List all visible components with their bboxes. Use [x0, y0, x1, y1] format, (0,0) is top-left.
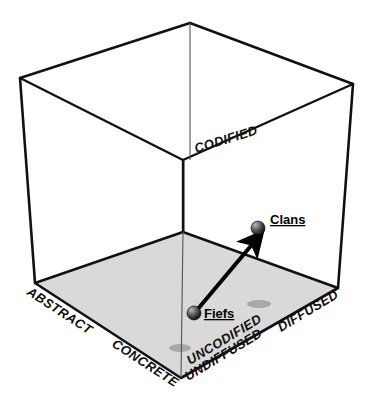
clans-marker[interactable] — [251, 221, 265, 235]
cube-left-face — [20, 78, 183, 378]
data-point-fiefs[interactable] — [187, 306, 201, 320]
fiefs-marker[interactable] — [187, 306, 201, 320]
fiefs-shadow — [169, 344, 191, 352]
figure-root: Clans Fiefs CODIFIED UNCODIFIED ABSTRACT… — [0, 0, 369, 404]
clans-label: Clans — [270, 212, 305, 227]
fiefs-label: Fiefs — [204, 306, 234, 321]
axis-label-codified: CODIFIED — [192, 122, 259, 156]
data-point-clans[interactable] — [251, 221, 265, 235]
clans-shadow — [247, 300, 271, 308]
i-space-cube-figure: Clans Fiefs CODIFIED UNCODIFIED ABSTRACT… — [0, 0, 369, 404]
